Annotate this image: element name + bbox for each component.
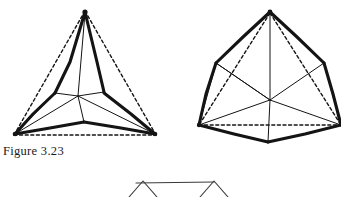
left-figure-thick-edges xyxy=(15,12,155,134)
thick-edge-apex-to-mid-right xyxy=(85,12,104,92)
vertex-base-left xyxy=(13,132,18,137)
vertex-base-left xyxy=(197,123,201,127)
thick-edge-base-left-to-base-bottom xyxy=(199,125,268,142)
thin-spoke-center-to-base-right xyxy=(270,100,341,125)
right-figure-thin-lines xyxy=(199,13,341,142)
thin-chord-shoulder-left xyxy=(216,63,270,100)
dashed-edge-apex-to-base-right xyxy=(270,13,341,125)
thick-edge-apex-to-mid-left xyxy=(55,12,85,93)
dashed-edge-apex-to-base-left xyxy=(14,11,85,135)
partial-peak-right xyxy=(200,181,228,197)
thin-spoke-center-to-base-left xyxy=(199,100,270,125)
dashed-edge-apex-to-base-left xyxy=(199,13,270,125)
left-figure-tetrahedral-solid xyxy=(13,9,158,136)
figure-caption: Figure 3.23 xyxy=(3,144,64,159)
thick-edge-shoulder-left-to-base-left xyxy=(199,63,216,125)
thin-axis-center-to-base-mid xyxy=(78,96,84,122)
vertex-apex xyxy=(268,10,273,15)
vertex-apex xyxy=(82,9,87,14)
thin-spoke-center-to-mid-right xyxy=(78,92,104,96)
bottom-partial-figure xyxy=(129,181,228,197)
thick-edge-base-bottom-to-base-right xyxy=(268,125,341,142)
thin-spoke-center-to-mid-left xyxy=(55,93,78,96)
thick-edge-shoulder-right-to-base-right xyxy=(324,63,341,125)
thin-axis-center-to-base-bottom xyxy=(268,100,270,142)
figure-illustrations xyxy=(0,0,341,197)
dashed-edge-apex-to-base-right xyxy=(85,11,156,135)
vertex-base-right xyxy=(153,132,158,137)
figure-plate: Figure 3.23 xyxy=(0,0,341,197)
thin-spoke-center-to-shoulder-right xyxy=(270,63,324,100)
partial-horizontal-bar xyxy=(136,182,214,183)
right-figure-hexagonal-solid xyxy=(197,10,341,142)
